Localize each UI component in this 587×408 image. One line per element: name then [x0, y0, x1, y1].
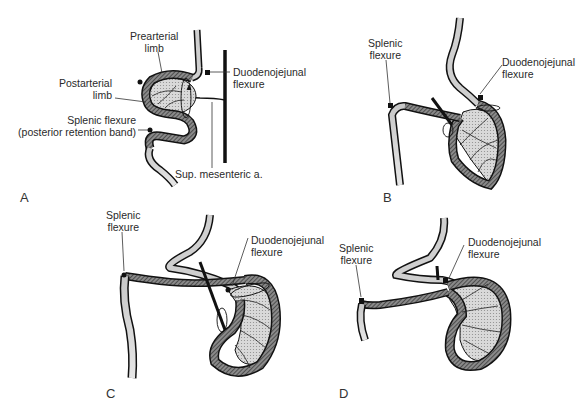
- label-line: Prearterial: [130, 30, 178, 42]
- panel-d-duodenojejunal-flexure-label: Duodenojejunal flexure: [468, 236, 541, 260]
- label-line: flexure: [368, 49, 402, 61]
- panel-d-splenic-flexure-label: Splenic flexure: [339, 242, 373, 266]
- label-line: flexure: [339, 254, 373, 266]
- label-line: flexure: [233, 78, 306, 90]
- panel-d-letter: D: [339, 386, 348, 401]
- label-line: flexure: [251, 246, 324, 258]
- panel-c-letter: C: [106, 386, 115, 401]
- anatomy-illustration: [0, 0, 587, 408]
- label-line: Postarterial: [50, 77, 112, 89]
- panel-a-prearterial-limb-label: Prearterial limb: [130, 30, 178, 54]
- label-line: (posterior retention band): [10, 126, 136, 138]
- label-line: Splenic: [368, 37, 402, 49]
- label-line: Duodenojejunal: [251, 234, 324, 246]
- panel-a-duodenojejunal-flexure-label: Duodenojejunal flexure: [233, 66, 306, 90]
- panel-c-splenic-flexure-label: Splenic flexure: [106, 209, 140, 233]
- panel-b-letter: B: [383, 190, 392, 205]
- panel-a-postarterial-limb-label: Postarterial limb: [50, 77, 112, 101]
- label-line: Splenic: [106, 209, 140, 221]
- label-line: flexure: [106, 221, 140, 233]
- panel-c-duodenojejunal-flexure-label: Duodenojejunal flexure: [251, 234, 324, 258]
- panel-a-sup-mesenteric-artery-label: Sup. mesenteric a.: [175, 168, 263, 180]
- label-line: Duodenojejunal: [233, 66, 306, 78]
- panel-b-drawing: [386, 18, 502, 185]
- label-line: limb: [130, 42, 178, 54]
- panel-a-splenic-flexure-label: Splenic flexure (posterior retention ban…: [10, 114, 136, 138]
- midgut-rotation-figure: Prearterial limb Postarterial limb Duode…: [0, 0, 587, 408]
- panel-b-duodenojejunal-flexure-label: Duodenojejunal flexure: [502, 56, 575, 80]
- label-line: flexure: [468, 248, 541, 260]
- label-line: Splenic: [339, 242, 373, 254]
- panel-b-splenic-flexure-label: Splenic flexure: [368, 37, 402, 61]
- label-line: flexure: [502, 68, 575, 80]
- label-line: limb: [50, 89, 112, 101]
- label-line: Duodenojejunal: [468, 236, 541, 248]
- panel-a-letter: A: [20, 190, 29, 205]
- label-line: Splenic flexure: [10, 114, 136, 126]
- label-line: Duodenojejunal: [502, 56, 575, 68]
